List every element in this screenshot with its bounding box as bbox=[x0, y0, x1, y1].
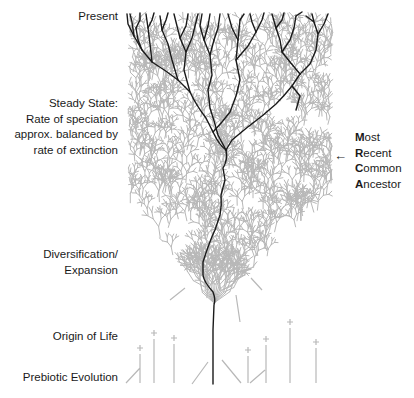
tree-of-life-diagram bbox=[0, 0, 414, 398]
mrca-line-recent: Recent bbox=[355, 146, 402, 162]
mrca-line-ancestor: Ancestor bbox=[355, 177, 402, 193]
mrca-rest-ancestor: ncestor bbox=[363, 178, 401, 190]
mrca-line-common: Common bbox=[355, 161, 402, 177]
mrca-rest-recent: ecent bbox=[363, 147, 391, 159]
mrca-initial-m: M bbox=[355, 131, 365, 143]
extinct-lineages bbox=[128, 12, 333, 303]
mrca-line-most: Most bbox=[355, 130, 402, 146]
mrca-arrow-icon: ← bbox=[334, 148, 347, 163]
mrca-rest-common: ommon bbox=[363, 162, 401, 174]
mrca-rest-most: ost bbox=[365, 131, 380, 143]
mrca-label: Most Recent Common Ancestor bbox=[355, 130, 402, 192]
